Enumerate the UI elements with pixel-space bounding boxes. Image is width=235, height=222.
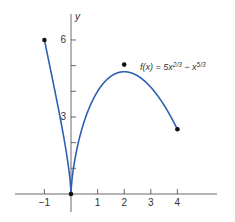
x-tick-label: 3 — [148, 197, 154, 208]
x-tick-label: 4 — [175, 197, 181, 208]
marked-point — [122, 62, 127, 67]
x-tick-label: 2 — [121, 197, 127, 208]
x-tick-label: 1 — [95, 197, 101, 208]
y-tick-label: 6 — [60, 34, 66, 45]
marked-point — [175, 127, 180, 132]
function-label: f(x) = 5x2/3 − x5/3 — [140, 61, 206, 73]
chart-container: −1123436 y f(x) = 5x2/3 − x5/3 — [0, 0, 235, 222]
function-plot: −1123436 y f(x) = 5x2/3 − x5/3 — [0, 0, 235, 222]
ticks: −1123436 — [39, 34, 181, 208]
y-axis-label: y — [74, 11, 81, 22]
marked-point — [69, 192, 74, 197]
marked-point — [42, 38, 47, 43]
x-tick-label: −1 — [39, 197, 51, 208]
